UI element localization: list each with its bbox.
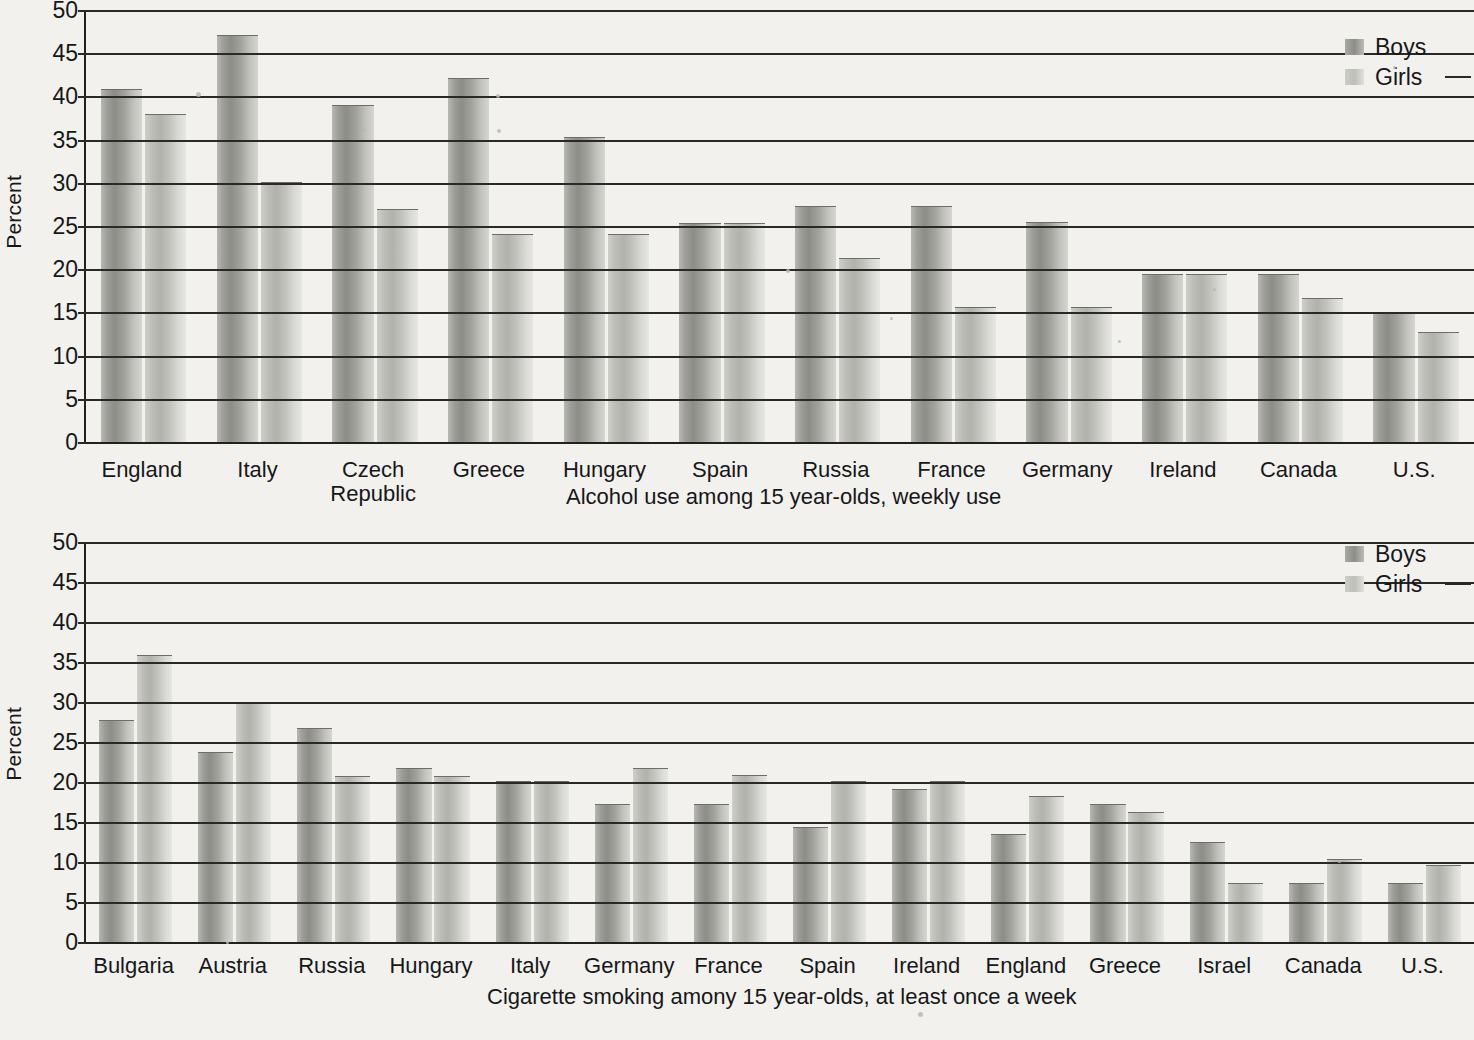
- bar-fill: [99, 720, 134, 942]
- bar-fill: [839, 258, 880, 442]
- bar-fill: [732, 775, 767, 942]
- y-tick-label: 20: [52, 258, 78, 281]
- legend-swatch-girls-icon: [1345, 69, 1364, 85]
- x-axis-label: Germany: [1022, 458, 1112, 482]
- bar-fill: [1388, 883, 1423, 942]
- x-axis-label: Spain: [692, 458, 748, 482]
- tick-mark: [78, 582, 86, 584]
- x-axis-label: Austria: [198, 954, 266, 978]
- bar-fill: [198, 752, 233, 942]
- caption-chart1: Alcohol use among 15 year-olds, weekly u…: [566, 484, 1001, 510]
- bar-fill: [1327, 859, 1362, 942]
- tick-mark: [78, 702, 86, 704]
- bar-fill: [492, 234, 533, 442]
- bar-fill: [1026, 222, 1067, 442]
- gridline: [86, 399, 1474, 401]
- tick-mark: [78, 140, 86, 142]
- tick-mark: [78, 442, 86, 444]
- bar-boys: [911, 206, 952, 442]
- bar-fill: [911, 206, 952, 442]
- bar-girls: [1302, 298, 1343, 442]
- bar-boys: [1190, 842, 1225, 942]
- gridline: [86, 862, 1474, 864]
- bar-fill: [724, 223, 765, 442]
- x-axis-label: Ireland: [893, 954, 960, 978]
- bar-boys: [396, 768, 431, 942]
- gridline: [86, 902, 1474, 904]
- y-tick-label: 5: [65, 891, 78, 914]
- tick-mark: [78, 822, 86, 824]
- tick-mark: [78, 622, 86, 624]
- gridline: [86, 269, 1474, 271]
- bar-fill: [1186, 274, 1227, 442]
- bar-boys: [1090, 804, 1125, 942]
- x-axis-label: Canada: [1285, 954, 1362, 978]
- tick-mark: [78, 399, 86, 401]
- legend-item-girls-chart1: Girls: [1345, 62, 1426, 92]
- scan-speck: [363, 129, 366, 132]
- scan-speck: [196, 92, 201, 97]
- y-tick-label: 45: [52, 571, 78, 594]
- x-axis-label: Greece: [453, 458, 525, 482]
- bar-fill: [335, 776, 370, 942]
- chart-cigarette-smoking: Percent 05101520253035404550 BulgariaAus…: [0, 532, 1472, 1040]
- scan-speck: [226, 941, 229, 944]
- y-tick-label: 20: [52, 771, 78, 794]
- bar-fill: [595, 804, 630, 942]
- gridline: [86, 782, 1474, 784]
- x-axis-label: England: [101, 458, 182, 482]
- bar-girls: [335, 776, 370, 942]
- y-tick-label: 45: [52, 42, 78, 65]
- y-tick-label: 10: [52, 344, 78, 367]
- tick-mark: [78, 53, 86, 55]
- bar-boys: [679, 223, 720, 442]
- legend-swatch-girls-icon: [1345, 576, 1364, 592]
- legend-rule-icon: [1445, 583, 1471, 585]
- x-axis-label: France: [917, 458, 985, 482]
- scan-speck: [786, 269, 790, 273]
- x-axis-label: Germany: [584, 954, 674, 978]
- y-tick-label: 15: [52, 301, 78, 324]
- gridline: [86, 10, 1474, 12]
- tick-mark: [78, 183, 86, 185]
- tick-mark: [78, 542, 86, 544]
- bar-fill: [608, 234, 649, 442]
- y-tick-label: 30: [52, 171, 78, 194]
- scan-speck: [918, 1012, 923, 1017]
- y-tick-label: 35: [52, 128, 78, 151]
- bar-fill: [991, 834, 1026, 942]
- x-axis-label: Russia: [298, 954, 365, 978]
- bar-girls: [1071, 307, 1112, 442]
- bar-fill: [892, 789, 927, 942]
- x-axis-label: Israel: [1197, 954, 1251, 978]
- bar-boys: [991, 834, 1026, 942]
- bar-girls: [1327, 859, 1362, 942]
- bar-boys: [793, 827, 828, 942]
- tick-mark: [78, 742, 86, 744]
- x-axis-label: Ireland: [1149, 458, 1216, 482]
- legend-swatch-boys-icon: [1345, 39, 1364, 55]
- bar-girls: [1228, 883, 1263, 942]
- bar-girls: [955, 307, 996, 442]
- x-axis-label: Bulgaria: [93, 954, 174, 978]
- scan-speck: [1213, 288, 1216, 291]
- tick-mark: [78, 269, 86, 271]
- x-axis-label-line: Czech: [342, 457, 404, 482]
- scan-speck: [496, 94, 500, 98]
- x-axis-label: U.S.: [1393, 458, 1436, 482]
- legend-swatch-boys-icon: [1345, 546, 1364, 562]
- y-tick-label: 0: [65, 931, 78, 954]
- bar-fill: [795, 206, 836, 442]
- bar-fill: [1128, 812, 1163, 942]
- bar-fill: [448, 78, 489, 442]
- legend-item-boys-chart2: Boys: [1345, 539, 1426, 569]
- bar-boys: [1373, 313, 1414, 442]
- bar-fill: [1071, 307, 1112, 442]
- tick-mark: [78, 356, 86, 358]
- y-axis-label-chart2: Percent: [2, 707, 26, 781]
- y-tick-label: 0: [65, 431, 78, 454]
- y-tick-label: 35: [52, 651, 78, 674]
- scan-speck: [890, 317, 893, 320]
- gridline: [86, 662, 1474, 664]
- tick-mark: [78, 942, 86, 944]
